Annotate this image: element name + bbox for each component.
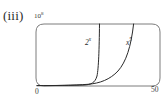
plot-area <box>0 0 167 106</box>
plot-frame <box>36 24 160 86</box>
curve-label-exponential-exponent: x <box>89 36 91 42</box>
x-axis-min-label: 0 <box>35 88 39 96</box>
x-axis-max-label: 50 <box>151 86 159 94</box>
curve-label-polynomial: x5 <box>126 37 132 46</box>
figure-container: (iii) 108 2x x5 0 50 <box>0 0 167 106</box>
curve-label-polynomial-exponent: 5 <box>129 36 132 42</box>
curve-label-exponential: 2x <box>85 37 91 46</box>
